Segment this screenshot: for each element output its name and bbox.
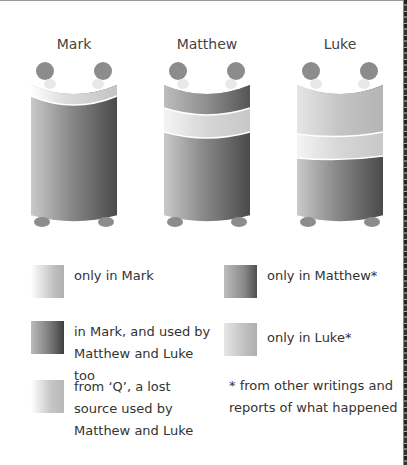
legend-label: from ‘Q’, a lost source used by Matthew …	[74, 376, 211, 442]
scroll-mark	[28, 60, 120, 235]
roller-knob-icon	[36, 62, 54, 80]
legend-item-only-mark: only in Mark	[31, 265, 211, 298]
scroll-title-luke: Luke	[290, 36, 390, 52]
roller-knob-icon	[302, 62, 320, 80]
swatch-only-matthew	[224, 265, 257, 298]
scroll-luke	[294, 60, 386, 235]
scroll-matthew	[161, 60, 253, 235]
roller-knob-icon	[169, 62, 187, 80]
roller-knob-icon	[227, 62, 245, 80]
swatch-shared-mark	[31, 321, 64, 354]
legend-label: only in Matthew*	[267, 265, 377, 287]
legend-label: only in Luke*	[267, 327, 351, 349]
swatch-only-mark	[31, 265, 64, 298]
legend-item-only-luke: only in Luke*	[224, 323, 399, 356]
footnote: * from other writings and reports of wha…	[229, 375, 399, 419]
roller-knob-icon	[94, 62, 112, 80]
legend-item-only-matthew: only in Matthew*	[224, 265, 399, 298]
scroll-title-mark: Mark	[24, 36, 124, 52]
legend-item-from-q: from ‘Q’, a lost source used by Matthew …	[31, 376, 211, 442]
roller-knob-icon	[360, 62, 378, 80]
swatch-only-luke	[224, 323, 257, 356]
scroll-title-matthew: Matthew	[157, 36, 257, 52]
legend-label: only in Mark	[74, 265, 154, 287]
swatch-from-q	[31, 380, 64, 413]
